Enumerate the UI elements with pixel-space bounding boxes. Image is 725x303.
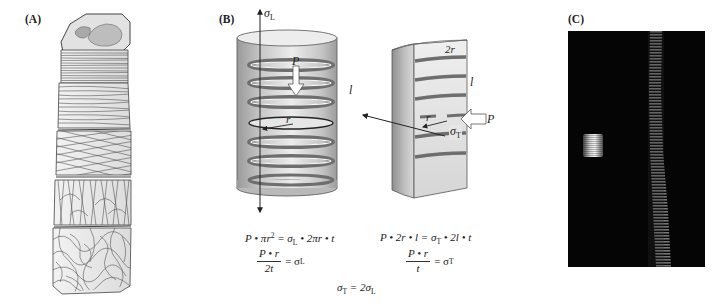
- diameter-2r-label: 2r: [445, 44, 455, 55]
- sigma-t-label: σT: [449, 125, 462, 140]
- longitudinal-cylinder: [237, 10, 337, 212]
- equation-longitudinal-balance: P • πr2 = σL • 2πr • t: [245, 232, 334, 247]
- length-l-label: l: [349, 84, 352, 96]
- equation-stress-relation: σT = 2σL: [337, 282, 375, 296]
- equation-transverse-stress: P • rt = σT: [406, 248, 454, 274]
- equation-longitudinal-stress: P • r2t = σL: [257, 248, 305, 274]
- transverse-half-cylinder: [363, 40, 486, 198]
- fiber-stack: [50, 14, 140, 294]
- micrograph: [568, 31, 705, 267]
- radius-r-label: r: [286, 114, 290, 125]
- half-pressure-p-label: P: [487, 113, 494, 125]
- half-length-l-label: l: [470, 76, 473, 88]
- pressure-p-label: P: [292, 55, 299, 67]
- equation-transverse-balance: P • 2r • l = σT • 2l • t: [380, 232, 471, 246]
- half-radius-r-label: r: [426, 112, 430, 123]
- sigma-l-label: σL: [264, 7, 275, 22]
- micrograph-image: [568, 31, 705, 267]
